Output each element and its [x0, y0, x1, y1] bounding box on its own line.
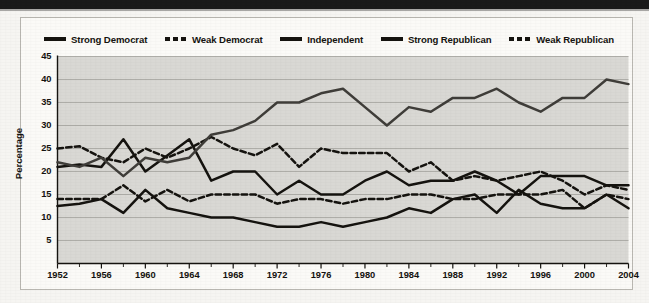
line-chart — [0, 0, 649, 303]
figure-page: Strong DemocratWeak DemocratIndependentS… — [0, 0, 649, 303]
